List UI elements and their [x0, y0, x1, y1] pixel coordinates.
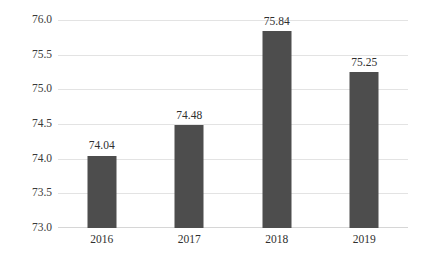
bar-value-label: 75.25	[351, 57, 377, 69]
bar-slot-2016: 74.04	[58, 20, 146, 228]
bar-2018[interactable]	[262, 31, 291, 228]
plot-area: 74.04 74.48 75.84 75.25	[58, 20, 408, 228]
x-axis-tick-label-2016: 2016	[90, 234, 113, 246]
y-axis-tick-label: 74.0	[6, 153, 52, 165]
y-axis-tick-label: 75.0	[6, 84, 52, 96]
bar-slot-2017: 74.48	[146, 20, 234, 228]
bar-slot-2018: 75.84	[233, 20, 321, 228]
y-axis-tick-label: 75.5	[6, 49, 52, 61]
y-axis-tick-label: 76.0	[6, 14, 52, 26]
x-axis-tick-label-2017: 2017	[178, 234, 201, 246]
x-axis-tick-label-2019: 2019	[353, 234, 376, 246]
x-axis-tick-label-2018: 2018	[265, 234, 288, 246]
bar-chart: 76.0 75.5 75.0 74.5 74.0 73.5 73.0 74.04…	[0, 0, 427, 265]
y-axis-tick-label: 73.0	[6, 222, 52, 234]
bar-2016[interactable]	[87, 156, 116, 228]
bar-value-label: 74.04	[89, 140, 115, 152]
bar-2017[interactable]	[175, 125, 204, 228]
bar-value-label: 74.48	[176, 110, 202, 122]
bar-slot-2019: 75.25	[321, 20, 409, 228]
y-axis-tick-label: 74.5	[6, 118, 52, 130]
bar-value-label: 75.84	[264, 16, 290, 28]
bar-2019[interactable]	[350, 72, 379, 228]
y-axis-tick-label: 73.5	[6, 188, 52, 200]
